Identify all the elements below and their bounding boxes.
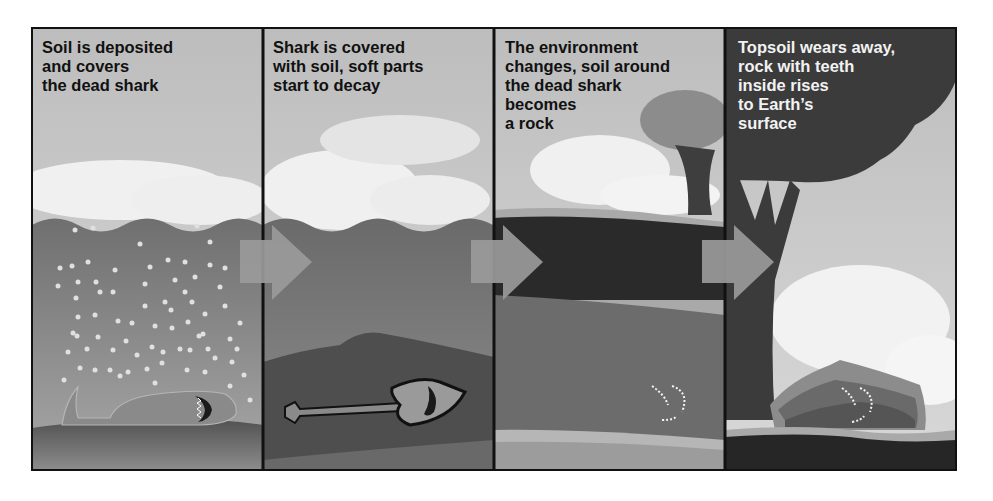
panel-4-caption: Topsoil wears away, rock with teeth insi… (738, 38, 895, 133)
panel-3-caption: The environment changes, soil around the… (505, 38, 670, 133)
panel-2-caption: Shark is covered with soil, soft parts s… (273, 38, 423, 95)
panel-1-caption: Soil is deposited and covers the dead sh… (42, 38, 173, 95)
